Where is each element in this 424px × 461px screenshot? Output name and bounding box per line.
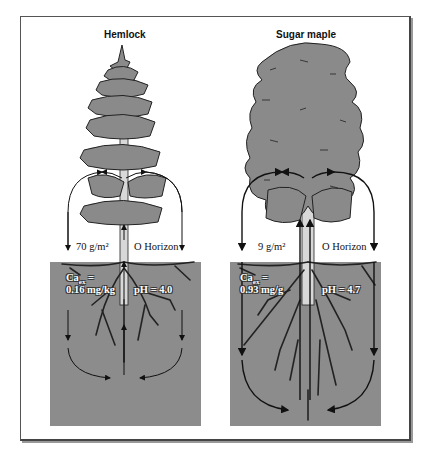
sugar-maple-ca-value: 0.93 mg/g xyxy=(240,284,283,295)
hemlock-panel xyxy=(50,45,201,426)
hemlock-ph-label: pH = 4.0 xyxy=(134,284,172,295)
sugar-maple-panel xyxy=(230,43,381,426)
nutrient-cycling-diagram xyxy=(0,0,424,461)
sugar-maple-ph-label: pH = 4.7 xyxy=(322,284,360,295)
ca-symbol: Ca xyxy=(66,272,79,283)
ca-equals: = xyxy=(85,272,94,283)
ca-symbol: Ca xyxy=(240,272,253,283)
hemlock-litter-mass: 70 g/m² xyxy=(76,241,109,252)
ca-equals: = xyxy=(259,272,268,283)
sugar-maple-horizon-label: O Horizon xyxy=(322,241,367,252)
hemlock-title: Hemlock xyxy=(104,29,146,40)
hemlock-ca-value: 0.16 mg/kg xyxy=(66,284,115,295)
sugar-maple-litter-mass: 9 g/m² xyxy=(258,241,285,252)
sugar-maple-title: Sugar maple xyxy=(276,29,336,40)
hemlock-horizon-label: O Horizon xyxy=(134,241,179,252)
sugar-maple-foliage xyxy=(245,43,364,223)
